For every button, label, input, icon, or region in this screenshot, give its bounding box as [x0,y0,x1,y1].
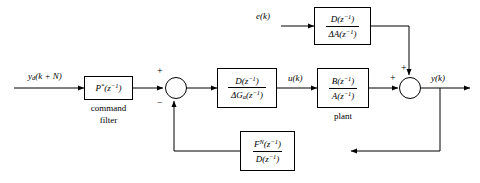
block-feedback-filter[interactable]: FN(z−1) D(z−1) [240,131,295,171]
controller-denominator: ΔGa(z−1) [228,87,266,101]
error-summer-plus-sign: + [157,66,163,76]
signal-label-control: u(k) [288,74,303,83]
error-summer-minus-sign: − [157,98,163,108]
plant-caption: plant [317,112,369,121]
signal-label-reference: yd(k + N) [28,72,62,82]
summing-junction-output[interactable] [399,77,421,99]
controller-transfer-function: D(z−1) ΔGa(z−1) [228,75,266,101]
command-filter-expression: P*(z−1) [96,82,122,93]
block-disturbance-filter[interactable]: D(z−1) ΔA(z−1) [314,7,371,45]
disturbance-filter-transfer-function: D(z−1) ΔA(z−1) [326,13,360,38]
signal-label-disturbance: e(k) [256,12,270,21]
command-filter-transfer-function: P*(z−1) [96,82,122,93]
block-controller[interactable]: D(z−1) ΔGa(z−1) [217,68,277,108]
summing-junction-error[interactable] [165,77,187,99]
wire-feedback-to-summer [174,101,240,151]
disturbance-filter-denominator: ΔA(z−1) [326,26,360,39]
controller-numerator: D(z−1) [232,75,262,87]
signal-label-output: y(k) [431,74,445,83]
command-filter-caption-line2: filter [84,116,133,125]
feedback-filter-transfer-function: FN(z−1) D(z−1) [251,138,284,163]
command-filter-caption-line1: command [84,104,133,113]
feedback-filter-denominator: D(z−1) [253,151,283,164]
feedback-filter-numerator: FN(z−1) [251,138,284,150]
output-summer-left-plus-sign: + [390,73,396,83]
plant-denominator: A(z−1) [329,88,358,101]
block-plant[interactable]: B(z−1) A(z−1) [317,68,369,108]
plant-numerator: B(z−1) [329,75,358,87]
block-command-filter[interactable]: P*(z−1) [84,76,133,100]
plant-transfer-function: B(z−1) A(z−1) [329,75,358,100]
disturbance-filter-numerator: D(z−1) [328,13,358,25]
output-summer-top-plus-sign: + [401,63,407,73]
